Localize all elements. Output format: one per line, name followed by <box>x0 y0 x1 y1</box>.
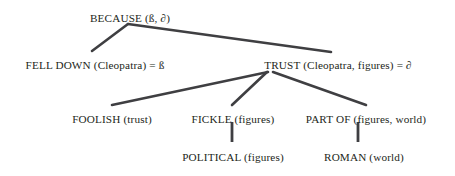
edge-because-to-trust <box>128 24 331 52</box>
node-trust: TRUST (Cleopatra, figures) = ∂ <box>264 59 412 71</box>
node-roman: ROMAN (world) <box>324 151 404 163</box>
edge-trust-to-part-of <box>273 72 366 105</box>
node-part-of: PART OF (figures, world) <box>306 113 426 125</box>
node-political: POLITICAL (figures) <box>182 151 284 163</box>
node-fell-down: FELL DOWN (Cleopatra) = ß <box>26 59 165 71</box>
edge-trust-to-foolish <box>112 72 268 105</box>
node-because: BECAUSE (ß, ∂) <box>90 12 170 24</box>
node-foolish: FOOLISH (trust) <box>72 113 152 125</box>
predicate-tree-diagram: BECAUSE (ß, ∂) FELL DOWN (Cleopatra) = ß… <box>0 0 455 176</box>
edge-layer <box>0 0 455 176</box>
edge-because-to-fell-down <box>92 24 128 51</box>
node-fickle: FICKLE (figures) <box>192 113 275 125</box>
